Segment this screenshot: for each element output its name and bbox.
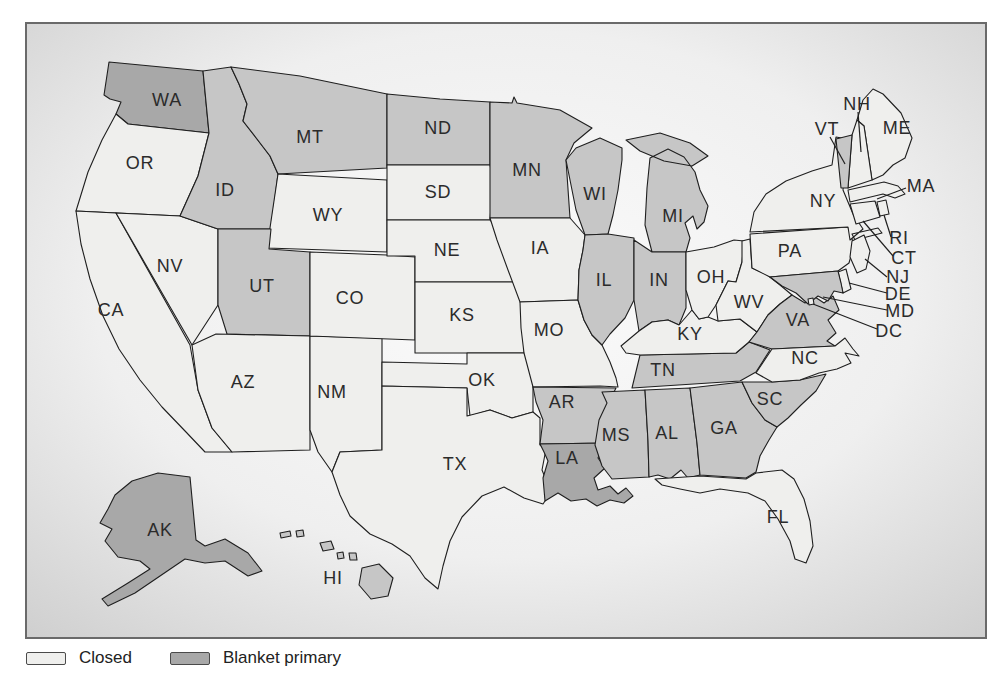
state-label-WY: WY (313, 205, 344, 225)
state-label-VT: VT (815, 119, 840, 139)
state-label-NY: NY (810, 191, 837, 211)
state-label-KS: KS (449, 305, 475, 325)
state-label-MT: MT (296, 127, 324, 147)
state-label-ID: ID (215, 180, 235, 200)
legend-item-blanket: Blanket primary (170, 648, 341, 668)
state-label-SD: SD (425, 182, 452, 202)
state-label-NV: NV (157, 256, 184, 276)
state-label-ND: ND (424, 118, 452, 138)
legend-swatch-closed (26, 652, 66, 665)
state-label-AR: AR (549, 392, 576, 412)
state-label-NE: NE (434, 240, 461, 260)
state-label-LA: LA (555, 448, 579, 468)
state-label-VA: VA (786, 310, 810, 330)
state-label-CO: CO (336, 288, 365, 308)
legend: Closed Blanket primary (26, 648, 379, 668)
legend-swatch-blanket (170, 652, 210, 665)
legend-item-closed: Closed (26, 648, 132, 668)
state-label-NC: NC (791, 348, 819, 368)
state-label-IL: IL (596, 270, 613, 290)
state-label-WV: WV (734, 292, 765, 312)
state-label-MA: MA (907, 176, 936, 196)
state-label-CT: CT (891, 248, 917, 268)
state-label-WI: WI (583, 184, 607, 204)
state-label-GA: GA (710, 418, 738, 438)
state-label-SC: SC (757, 389, 784, 409)
state-label-AK: AK (147, 520, 173, 540)
state-label-DC: DC (875, 321, 903, 341)
state-label-AL: AL (655, 423, 679, 443)
state-label-IA: IA (531, 238, 550, 258)
state-label-AZ: AZ (231, 372, 256, 392)
state-label-MO: MO (534, 320, 565, 340)
state-label-ME: ME (883, 118, 912, 138)
state-label-WA: WA (152, 90, 182, 110)
state-label-OR: OR (126, 153, 155, 173)
state-label-IN: IN (649, 270, 669, 290)
scanned-map-figure: WAORCANVIDMTWYUTAZNMCONDSDNEKSOKTXMNIAMO… (0, 0, 1008, 676)
us-map-svg: WAORCANVIDMTWYUTAZNMCONDSDNEKSOKTXMNIAMO… (25, 22, 987, 639)
state-label-OH: OH (697, 267, 726, 287)
state-label-MI: MI (662, 206, 684, 226)
state-label-NM: NM (317, 382, 347, 402)
legend-label-closed: Closed (79, 648, 132, 668)
state-label-HI: HI (323, 568, 343, 588)
legend-label-blanket: Blanket primary (223, 648, 341, 668)
state-label-TN: TN (650, 360, 676, 380)
state-label-PA: PA (778, 241, 802, 261)
state-label-MS: MS (602, 425, 631, 445)
state-label-FL: FL (767, 507, 790, 527)
state-label-NH: NH (843, 94, 871, 114)
state-label-MD: MD (885, 301, 915, 321)
state-label-RI: RI (889, 228, 909, 248)
state-label-OK: OK (468, 370, 496, 390)
state-label-KY: KY (677, 324, 703, 344)
state-label-TX: TX (443, 454, 468, 474)
state-label-UT: UT (249, 276, 275, 296)
state-label-CA: CA (98, 300, 125, 320)
state-label-MN: MN (512, 160, 542, 180)
